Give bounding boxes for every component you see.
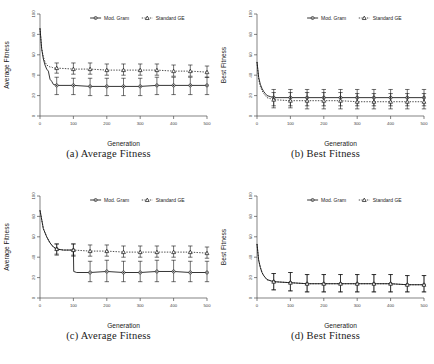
plot-c: 0100200300400500020406080100GenerationAv… [0,182,217,332]
svg-text:40: 40 [248,72,253,77]
svg-text:200: 200 [103,121,111,126]
svg-text:Average Fitness: Average Fitness [3,41,11,89]
svg-text:60: 60 [31,234,36,239]
caption-b: (b) Best Fitness [217,148,434,159]
svg-text:100: 100 [31,192,36,200]
svg-text:80: 80 [248,213,253,218]
svg-text:Standard GE: Standard GE [156,197,186,203]
svg-text:300: 300 [137,121,145,126]
svg-text:0: 0 [39,121,42,126]
svg-text:300: 300 [354,121,362,126]
svg-text:20: 20 [248,93,253,98]
svg-text:0: 0 [256,121,259,126]
svg-text:Standard GE: Standard GE [373,197,403,203]
caption-a: (a) Average Fitness [0,148,217,159]
svg-text:0: 0 [31,114,36,117]
figure-grid: 0100200300400500020406080100GenerationAv… [0,0,434,364]
svg-text:500: 500 [204,303,212,308]
svg-text:0: 0 [31,296,36,299]
svg-text:300: 300 [137,303,145,308]
svg-text:Mod. Gram: Mod. Gram [321,197,346,203]
svg-text:Best Fitness: Best Fitness [220,228,227,265]
svg-text:Mod. Gram: Mod. Gram [104,197,129,203]
svg-text:20: 20 [248,275,253,280]
svg-text:Average Fitness: Average Fitness [3,223,11,271]
svg-text:Best Fitness: Best Fitness [220,46,227,83]
svg-text:Generation: Generation [107,322,140,329]
svg-text:80: 80 [248,31,253,36]
svg-text:400: 400 [170,121,178,126]
svg-text:200: 200 [320,303,328,308]
plot-d: 0100200300400500020406080100GenerationBe… [217,182,434,332]
svg-text:20: 20 [31,93,36,98]
svg-text:Mod. Gram: Mod. Gram [321,15,346,21]
svg-text:100: 100 [287,303,295,308]
svg-text:Standard GE: Standard GE [156,15,186,21]
svg-text:200: 200 [320,121,328,126]
svg-text:80: 80 [31,31,36,36]
svg-text:20: 20 [31,275,36,280]
plot-a: 0100200300400500020406080100GenerationAv… [0,0,217,150]
svg-text:Generation: Generation [107,140,140,147]
svg-text:500: 500 [204,121,212,126]
svg-text:400: 400 [387,121,395,126]
svg-text:40: 40 [248,254,253,259]
svg-text:100: 100 [287,121,295,126]
svg-text:Standard GE: Standard GE [373,15,403,21]
svg-text:200: 200 [103,303,111,308]
svg-text:500: 500 [421,121,429,126]
svg-text:40: 40 [31,254,36,259]
svg-text:100: 100 [31,10,36,18]
svg-text:60: 60 [31,52,36,57]
svg-text:Generation: Generation [324,322,357,329]
svg-text:400: 400 [170,303,178,308]
plot-b: 0100200300400500020406080100GenerationBe… [217,0,434,150]
svg-text:0: 0 [248,296,253,299]
svg-text:100: 100 [248,10,253,18]
svg-text:0: 0 [39,303,42,308]
svg-text:100: 100 [248,192,253,200]
svg-text:Generation: Generation [324,140,357,147]
svg-text:100: 100 [70,121,78,126]
svg-text:400: 400 [387,303,395,308]
svg-text:0: 0 [256,303,259,308]
caption-d: (d) Best Fitness [217,330,434,341]
svg-text:40: 40 [31,72,36,77]
panel-b: 0100200300400500020406080100GenerationBe… [217,0,434,182]
svg-text:500: 500 [421,303,429,308]
caption-c: (c) Average Fitness [0,330,217,341]
panel-c: 0100200300400500020406080100GenerationAv… [0,182,217,364]
svg-text:300: 300 [354,303,362,308]
panel-d: 0100200300400500020406080100GenerationBe… [217,182,434,364]
panel-a: 0100200300400500020406080100GenerationAv… [0,0,217,182]
svg-text:80: 80 [31,213,36,218]
svg-text:Mod. Gram: Mod. Gram [104,15,129,21]
svg-text:60: 60 [248,52,253,57]
svg-text:100: 100 [70,303,78,308]
svg-text:60: 60 [248,234,253,239]
svg-text:0: 0 [248,114,253,117]
